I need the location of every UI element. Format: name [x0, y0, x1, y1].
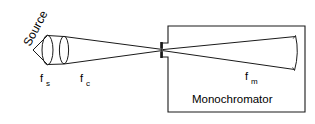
- entrance-slit-lower-jaw: [160, 51, 163, 58]
- internal-divergent-beam: [163, 37, 296, 70]
- converge-ray-lower: [64, 51, 162, 64]
- fs-label-subscript: s: [46, 79, 50, 88]
- fs-label-group: f s: [40, 72, 50, 88]
- fm-label-base: f: [245, 70, 249, 82]
- source-label-group: Source: [20, 8, 50, 48]
- source-lens: [42, 35, 53, 65]
- converge-ray-upper: [64, 37, 162, 50]
- entrance-slit-upper-jaw: [160, 42, 163, 49]
- monochromator-label: Monochromator: [192, 93, 273, 105]
- optical-diagram-figure: Source f s f c f m Monochromator: [0, 0, 315, 124]
- optical-diagram-canvas: Source f s f c f m Monochromator: [0, 0, 315, 124]
- source-label: Source: [20, 8, 50, 48]
- source-ray-lower: [33, 50, 48, 65]
- collimated-ray-lower: [48, 64, 65, 65]
- monochromator-label-group: Monochromator: [192, 93, 273, 105]
- fm-label-group: f m: [245, 70, 258, 86]
- source-lens-body: [42, 35, 53, 65]
- fs-label-base: f: [40, 72, 44, 84]
- fc-label-subscript: c: [86, 79, 90, 88]
- focusing-mirror-surface: [295, 36, 298, 71]
- converging-beam-to-slit: [64, 37, 162, 65]
- collimated-beam-segment: [48, 36, 65, 65]
- internal-ray-lower: [163, 51, 295, 70]
- focusing-mirror: [293, 36, 298, 71]
- condenser-lens-body: [59, 36, 68, 64]
- fm-label-subscript: m: [251, 77, 258, 86]
- internal-ray-upper: [163, 37, 296, 50]
- condenser-lens: [59, 36, 68, 64]
- fc-label-group: f c: [80, 72, 90, 88]
- fc-label-base: f: [80, 72, 84, 84]
